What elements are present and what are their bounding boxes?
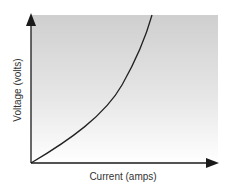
x-axis-label: Current (amps) xyxy=(89,171,156,182)
y-axis-label: Voltage (volts) xyxy=(12,58,23,121)
plot-background xyxy=(31,15,218,163)
voltage-current-diagram: Current (amps) Voltage (volts) xyxy=(0,0,230,191)
